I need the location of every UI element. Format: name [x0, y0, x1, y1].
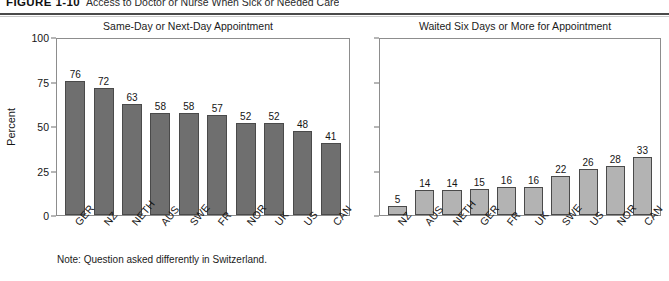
bar-value-label: 22 — [547, 164, 574, 175]
bar-aus — [150, 113, 170, 215]
y-tick-label-75: 75 — [37, 77, 49, 89]
bar-value-label: 5 — [384, 194, 411, 205]
bar-value-label: 41 — [317, 131, 345, 142]
bar-slot: 22 — [547, 39, 574, 215]
bar-slot: 14 — [411, 39, 438, 215]
bar-slot: 48 — [288, 39, 316, 215]
figure-note: Note: Question asked differently in Swit… — [57, 254, 267, 265]
category-slot: SWE — [547, 217, 574, 267]
bar-value-label: 16 — [520, 175, 547, 186]
figure-root: FIGURE 1-10 Access to Doctor or Nurse Wh… — [0, 0, 669, 281]
bar-slot: 28 — [602, 39, 629, 215]
bar-value-label: 58 — [146, 101, 174, 112]
bar-value-label: 52 — [260, 111, 288, 122]
bar-slot: 63 — [118, 39, 146, 215]
figure-number: FIGURE 1-10 — [6, 0, 80, 8]
bar-value-label: 28 — [602, 154, 629, 165]
bar-slot: 5 — [384, 39, 411, 215]
caption-divider — [0, 13, 669, 15]
bar-value-label: 26 — [574, 157, 601, 168]
bar-slot: 15 — [466, 39, 493, 215]
bar-value-label: 52 — [231, 111, 259, 122]
bar-slot: 26 — [574, 39, 601, 215]
y-axis-left: Percent 0 25 50 75 100 — [18, 38, 56, 216]
bar-slot: 58 — [175, 39, 203, 215]
bar-nor — [606, 166, 625, 215]
y-tick-label-100: 100 — [31, 32, 49, 44]
category-slot: NZ — [383, 217, 410, 267]
bar-value-label: 16 — [493, 175, 520, 186]
panel-title-right: Waited Six Days or More for Appointment — [365, 20, 665, 32]
y-tick-label-50: 50 — [37, 121, 49, 133]
y-tick-label-25: 25 — [37, 166, 49, 178]
chart-panels: Same-Day or Next-Day Appointment Percent… — [0, 20, 669, 281]
category-slot: AUS — [410, 217, 437, 267]
bar-group-left: 76726358585752524841 — [57, 39, 349, 215]
y-axis-title: Percent — [5, 108, 17, 146]
bar-uk — [264, 123, 284, 215]
bar-group-right: 5141415161622262833 — [380, 39, 660, 215]
category-slot: US — [289, 217, 318, 267]
bar-us — [293, 131, 313, 215]
bar-slot: 58 — [146, 39, 174, 215]
category-slot: NETH — [438, 217, 465, 267]
category-slot: CAN — [317, 217, 346, 267]
bar-value-label: 76 — [61, 69, 89, 80]
figure-title: Access to Doctor or Nurse When Sick or N… — [86, 0, 339, 8]
bar-slot: 14 — [438, 39, 465, 215]
bar-neth — [122, 104, 142, 215]
bar-value-label: 14 — [438, 178, 465, 189]
category-slot: FR — [493, 217, 520, 267]
category-axis-right: NZAUSNETHGERFRUKSWEUSNORCAN — [379, 217, 661, 267]
bar-slot: 52 — [231, 39, 259, 215]
category-slot: US — [575, 217, 602, 267]
bar-value-label: 63 — [118, 92, 146, 103]
bar-ger — [65, 81, 85, 215]
bar-value-label: 57 — [203, 103, 231, 114]
category-slot: GER — [465, 217, 492, 267]
bar-value-label: 58 — [175, 101, 203, 112]
bar-value-label: 14 — [411, 178, 438, 189]
bar-value-label: 72 — [89, 76, 117, 87]
plot-area-left: 76726358585752524841 — [56, 38, 350, 216]
category-slot: CAN — [630, 217, 657, 267]
bar-slot: 33 — [629, 39, 656, 215]
bar-fr — [207, 115, 227, 215]
bar-can — [321, 143, 341, 215]
bar-slot: 72 — [89, 39, 117, 215]
y-tick-label-0: 0 — [43, 210, 49, 222]
category-slot: UK — [520, 217, 547, 267]
plot-area-right: 5141415161622262833 — [379, 38, 661, 216]
bar-slot: 16 — [520, 39, 547, 215]
bar-value-label: 48 — [288, 119, 316, 130]
bar-nz — [94, 88, 114, 215]
bar-nor — [236, 123, 256, 215]
bar-slot: 76 — [61, 39, 89, 215]
caption-divider-thin — [0, 16, 669, 17]
bar-slot: 57 — [203, 39, 231, 215]
panel-title-left: Same-Day or Next-Day Appointment — [38, 20, 338, 32]
category-slot: NOR — [602, 217, 629, 267]
bar-swe — [179, 113, 199, 215]
bar-value-label: 15 — [466, 177, 493, 188]
bar-slot: 16 — [493, 39, 520, 215]
bar-value-label: 33 — [629, 145, 656, 156]
figure-caption: FIGURE 1-10 Access to Doctor or Nurse Wh… — [6, 0, 339, 10]
bar-slot: 41 — [317, 39, 345, 215]
bar-slot: 52 — [260, 39, 288, 215]
